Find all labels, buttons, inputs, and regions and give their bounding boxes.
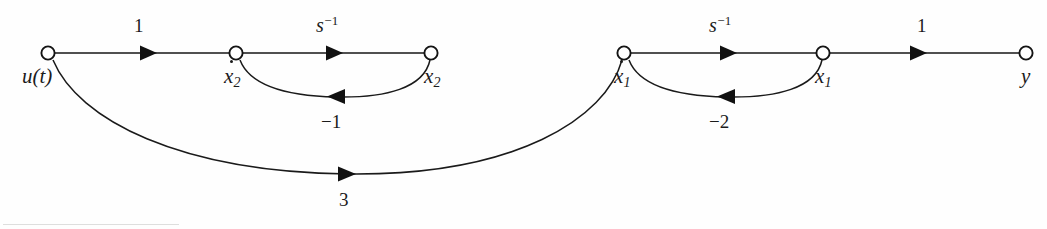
- node-label-x1dot: x1: [614, 66, 631, 90]
- scan-edge-artifact: [3, 224, 179, 225]
- edge-gain-x1-to-y: 1: [917, 16, 927, 35]
- edge-gain-x2dot-to-x2-base: s: [316, 14, 324, 36]
- edge-gain-x1-to-x1dot: −2: [709, 112, 729, 131]
- node-u[interactable]: [41, 46, 54, 59]
- signal-flow-graph-figure: u(t) x2 x2 x1 x1 y 1 s−1 −1 s−1 −2 1 3: [0, 0, 1047, 229]
- edge-gain-x2dot-to-x2: s−1: [316, 14, 338, 35]
- node-label-x2: x2: [424, 66, 441, 90]
- node-label-x1: x1: [815, 66, 832, 90]
- node-x2[interactable]: [424, 46, 437, 59]
- edge-gain-u-to-x1dot: 3: [339, 190, 349, 209]
- edge-gain-x2-to-x2dot: −1: [321, 112, 341, 131]
- node-label-x1-base: x: [815, 64, 824, 88]
- edge-x1-to-x1dot-arc: [629, 60, 822, 97]
- edge-x2-to-x2dot-arc: [240, 60, 430, 97]
- edge-gain-u-to-x2dot: 1: [134, 16, 144, 35]
- node-label-x2-base: x: [424, 64, 433, 88]
- edge-gain-x1dot-to-x1: s−1: [709, 14, 731, 35]
- edge-x1-to-x1dot-arrowhead: [717, 89, 735, 104]
- node-label-x1-subscript: 1: [825, 75, 832, 90]
- edge-gain-x1dot-to-x1-exponent: −1: [717, 13, 731, 28]
- node-y[interactable]: [1019, 46, 1032, 59]
- node-x2dot[interactable]: [229, 46, 242, 59]
- edge-x1dot-to-x1-arrowhead: [720, 46, 737, 61]
- node-x1[interactable]: [816, 46, 829, 59]
- edge-u-to-x2dot-arrowhead: [140, 46, 157, 61]
- node-label-x2dot-subscript: 2: [234, 75, 241, 90]
- node-label-x2-subscript: 2: [434, 75, 441, 90]
- edge-gain-x1dot-to-x1-base: s: [709, 14, 717, 36]
- node-label-x1dot-subscript: 1: [624, 75, 631, 90]
- node-x1dot[interactable]: [617, 46, 630, 59]
- edge-u-to-x1dot-arrowhead: [338, 167, 356, 182]
- node-label-x2dot: x2: [224, 66, 241, 90]
- node-label-u: u(t): [22, 66, 52, 87]
- edge-x2-to-x2dot-arrowhead: [327, 89, 345, 104]
- edge-x2dot-to-x2-arrowhead: [326, 46, 343, 61]
- edge-x1-to-y-arrowhead: [910, 46, 927, 61]
- edge-gain-x2dot-to-x2-exponent: −1: [324, 13, 338, 28]
- node-label-x1dot-base: x: [614, 64, 623, 88]
- signal-flow-graph-canvas: [0, 0, 1047, 229]
- node-label-x2dot-base: x: [224, 64, 233, 88]
- node-label-y: y: [1021, 66, 1030, 87]
